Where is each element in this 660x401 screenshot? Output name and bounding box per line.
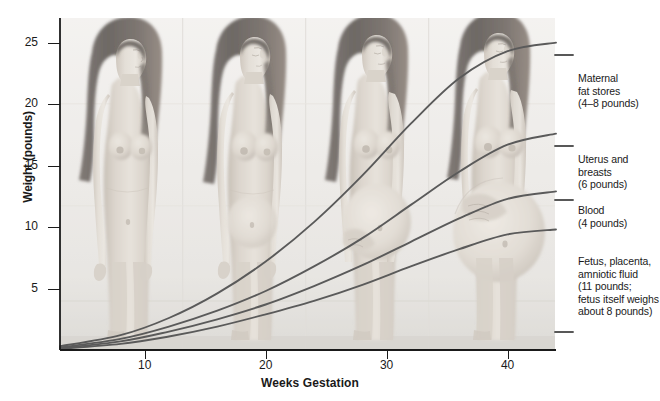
x-tick-mark — [508, 350, 509, 359]
annotation-line: amniotic fluid — [578, 268, 660, 281]
pregnancy-weight-gain-figure: Weight (pounds) Weeks Gestation 51015202… — [0, 0, 660, 401]
annotation-line: about 8 pounds) — [578, 305, 660, 318]
annotation-line: Maternal — [578, 72, 660, 85]
annotation-blood: Blood(4 pounds) — [578, 204, 660, 229]
y-tick-mark — [48, 166, 60, 167]
annotation-leader-lines — [555, 55, 573, 332]
y-tick-mark — [48, 104, 60, 105]
annotation-line: Uterus and — [578, 153, 660, 166]
x-axis-label: Weeks Gestation — [160, 376, 460, 390]
y-tick-label: 5 — [8, 281, 38, 295]
annotation-line: (11 pounds; — [578, 280, 660, 293]
annotation-line: fat stores — [578, 85, 660, 98]
annotation-line: Fetus, placenta, — [578, 255, 660, 268]
illustration-haze — [60, 18, 555, 350]
y-tick-label: 15 — [8, 158, 38, 172]
annotation-line: (4 pounds) — [578, 217, 660, 230]
annotation-maternal-fat-stores: Maternalfat stores(4–8 pounds) — [578, 72, 660, 110]
y-tick-label: 25 — [8, 35, 38, 49]
annotation-line: Blood — [578, 204, 660, 217]
x-tick-mark — [266, 350, 267, 359]
annotation-line: (4–8 pounds) — [578, 97, 660, 110]
chart-canvas — [0, 0, 660, 401]
annotation-uterus-and-breasts: Uterus andbreasts(6 pounds) — [578, 153, 660, 191]
annotation-fetus-placenta-amniotic-fluid: Fetus, placenta,amniotic fluid(11 pounds… — [578, 255, 660, 318]
y-tick-mark — [48, 289, 60, 290]
x-tick-label: 20 — [246, 358, 286, 372]
y-tick-mark — [48, 227, 60, 228]
y-tick-label: 10 — [8, 219, 38, 233]
x-tick-label: 10 — [125, 358, 165, 372]
x-tick-label: 30 — [367, 358, 407, 372]
x-tick-mark — [387, 350, 388, 359]
x-tick-mark — [145, 350, 146, 359]
y-tick-label: 20 — [8, 96, 38, 110]
annotation-line: fetus itself weighs — [578, 293, 660, 306]
y-tick-mark — [48, 43, 60, 44]
annotation-line: (6 pounds) — [578, 178, 660, 191]
x-tick-label: 40 — [488, 358, 528, 372]
annotation-line: breasts — [578, 166, 660, 179]
